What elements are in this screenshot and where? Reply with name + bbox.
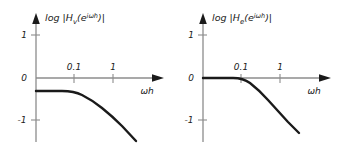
- y-axis-label-open: |H: [63, 12, 73, 23]
- chart-panel-left: 1 0 -1 0.1 1 ωh log |Hv(eiωh)|: [0, 0, 171, 154]
- x-tick-label-1: 1: [110, 62, 116, 72]
- x-tick-label-0-1: 0.1: [234, 62, 248, 72]
- x-tick-label-1: 1: [277, 62, 283, 72]
- y-axis-label-mid: (e: [77, 12, 87, 23]
- y-axis-label-log: log: [45, 12, 59, 23]
- response-curve: [36, 91, 136, 141]
- figure-bode-magnitude-plots: 1 0 -1 0.1 1 ωh log |Hv(eiωh)|: [0, 0, 342, 154]
- y-axis-label-open: |H: [230, 12, 240, 23]
- y-axis-label-close: )|: [97, 12, 105, 23]
- y-axis-label-mid: (e: [244, 12, 254, 23]
- y-axis-label: log |He(eiωh)|: [212, 12, 272, 26]
- x-axis-label: ωh: [307, 86, 321, 96]
- y-axis-arrowhead: [199, 13, 207, 24]
- y-tick-label-minus-1: -1: [185, 115, 194, 125]
- y-axis-label-log: log: [212, 12, 226, 23]
- y-tick-label-1: 1: [21, 30, 27, 40]
- y-axis-label-exponent: iωh: [87, 12, 98, 20]
- chart-panel-right: 1 0 -1 0.1 1 ωh log |He(eiωh)|: [171, 0, 342, 154]
- y-axis-label-close: )|: [264, 12, 272, 23]
- x-axis-arrowhead: [152, 74, 164, 82]
- response-curve: [203, 78, 299, 133]
- y-axis-arrowhead: [32, 13, 40, 24]
- x-tick-label-0-1: 0.1: [67, 62, 81, 72]
- y-axis-label: log |Hv(eiωh)|: [45, 12, 105, 26]
- x-axis-arrowhead: [319, 74, 331, 82]
- y-tick-label-0: 0: [21, 73, 27, 83]
- x-axis-label: ωh: [140, 86, 154, 96]
- y-axis-label-exponent: iωh: [254, 12, 265, 20]
- y-tick-label-1: 1: [188, 30, 194, 40]
- y-tick-label-0: 0: [188, 73, 194, 83]
- y-tick-label-minus-1: -1: [18, 115, 27, 125]
